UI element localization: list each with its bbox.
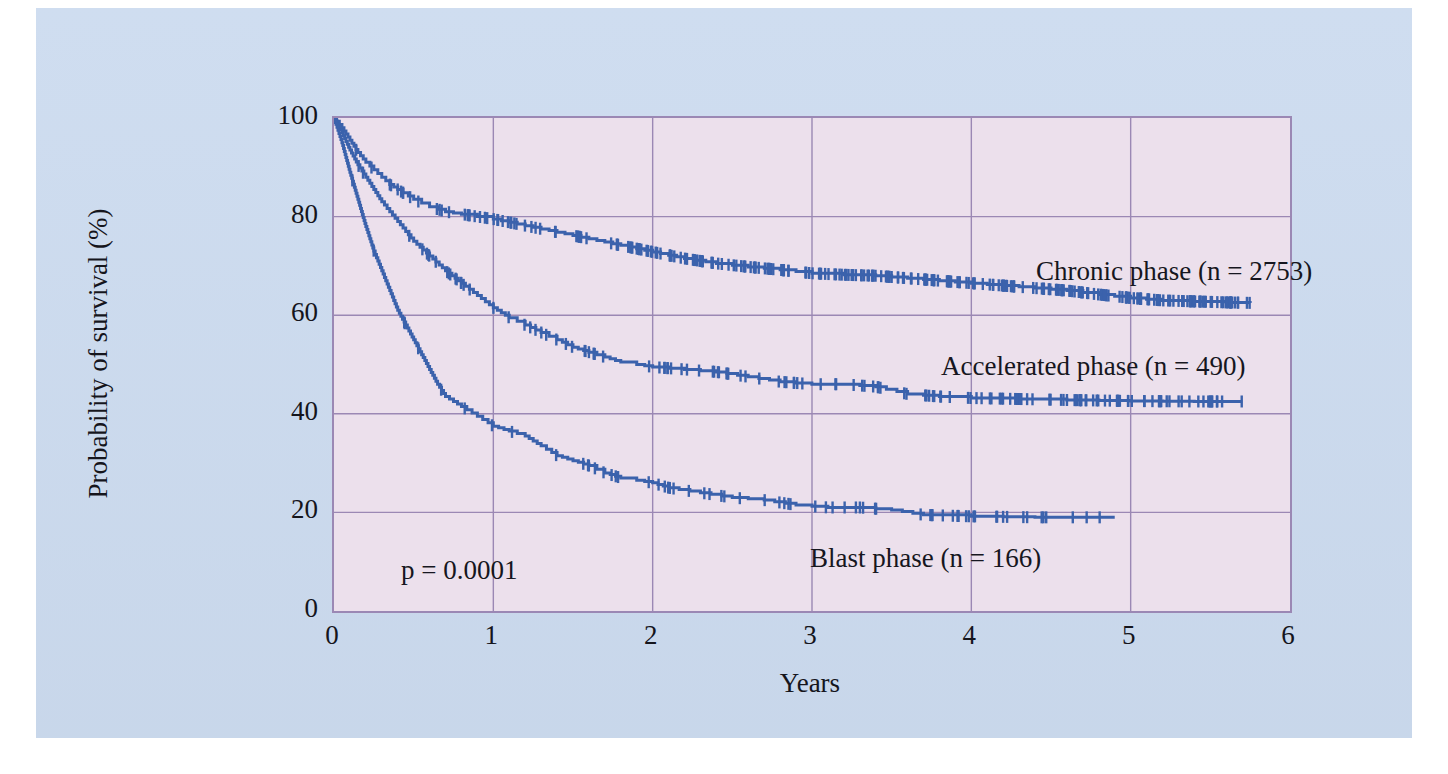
x-tick-label: 2 xyxy=(621,622,681,649)
x-tick-label: 0 xyxy=(302,622,362,649)
survival-curve xyxy=(334,118,1115,517)
x-tick-label: 1 xyxy=(461,622,521,649)
x-tick-label: 4 xyxy=(939,622,999,649)
curve-label-blast-phase: Blast phase (n = 166) xyxy=(810,545,1041,572)
censoring-marks xyxy=(352,174,1099,523)
y-tick-label: 20 xyxy=(248,496,318,523)
x-tick-label: 6 xyxy=(1258,622,1318,649)
x-tick-label: 5 xyxy=(1099,622,1159,649)
y-tick-label: 40 xyxy=(248,398,318,425)
x-tick-label: 3 xyxy=(780,622,840,649)
x-axis-tick-labels: 0123456 xyxy=(332,622,1288,662)
p-value-annotation: p = 0.0001 xyxy=(401,557,517,584)
y-tick-label: 100 xyxy=(248,102,318,129)
curve-label-chronic-phase: Chronic phase (n = 2753) xyxy=(1036,258,1312,285)
y-axis-title: Probability of survival (%) xyxy=(83,144,114,564)
y-tick-label: 80 xyxy=(248,201,318,228)
y-tick-label: 60 xyxy=(248,299,318,326)
figure-panel: Probability of survival (%) 020406080100… xyxy=(36,8,1412,738)
figure-root: Probability of survival (%) 020406080100… xyxy=(0,0,1448,774)
figure-caption xyxy=(36,746,1412,770)
curve-group xyxy=(334,118,1250,523)
y-tick-label: 0 xyxy=(248,595,318,622)
curve-label-accelerated-phase: Accelerated phase (n = 490) xyxy=(941,353,1246,380)
x-axis-title: Years xyxy=(332,668,1288,699)
